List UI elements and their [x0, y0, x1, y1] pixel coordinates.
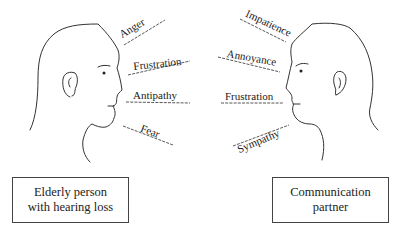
left-head-icon: [30, 24, 122, 162]
left-person-label-line2: with hearing loss: [28, 200, 113, 215]
left-person-label-box: Elderly person with hearing loss: [12, 177, 129, 223]
emotion-label-antipathy: Antipathy: [133, 89, 177, 101]
right-person-label-line2: partner: [313, 200, 348, 215]
right-emotion-lines: [218, 19, 289, 146]
right-head-icon: [286, 23, 378, 160]
left-eye-icon: [103, 72, 106, 75]
emotion-label-frustration-right: Frustration: [225, 90, 273, 102]
left-person-label-line1: Elderly person: [34, 185, 107, 200]
right-person-label-box: Communication partner: [272, 177, 389, 223]
right-eye-icon: [300, 70, 303, 73]
communication-emotions-diagram: Anger Frustration Antipathy Fear Impatie…: [0, 0, 403, 237]
right-person-label-line1: Communication: [290, 185, 371, 200]
